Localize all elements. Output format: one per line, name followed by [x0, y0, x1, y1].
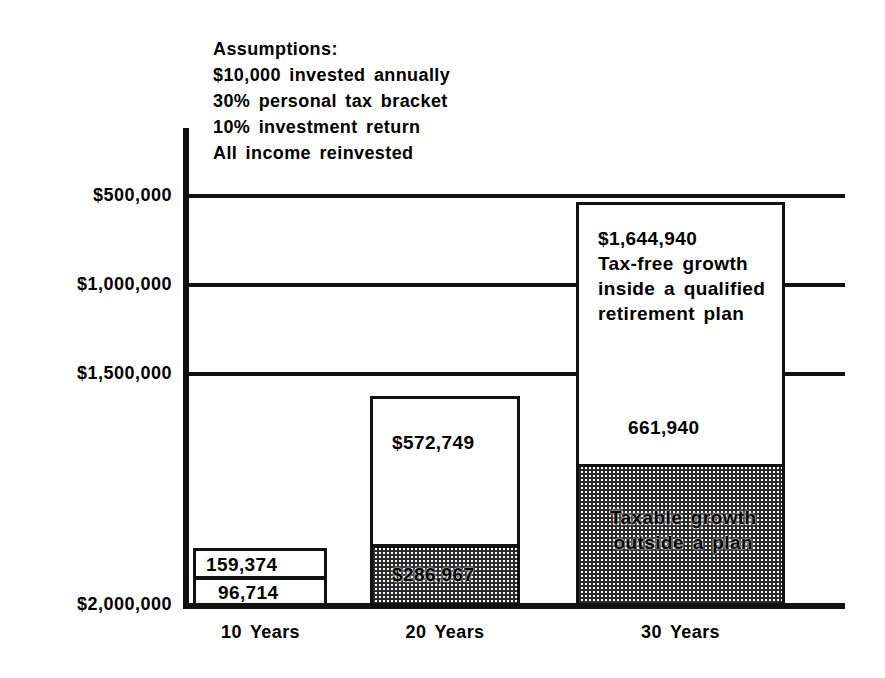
assumptions-line-3: 10% investment return: [213, 114, 450, 140]
bar-20years-segment-taxfree: [370, 396, 520, 547]
bar-30years-taxable-desc-line-1: Taxable growth: [610, 505, 757, 530]
bar-30years-taxfree-desc-line-1: Tax-free growth: [598, 251, 765, 276]
x-tick-label-10years: 10 Years: [195, 622, 326, 643]
assumptions-line-4: All income reinvested: [213, 140, 450, 166]
y-tick-label-2000000: $2,000,000: [0, 594, 172, 615]
bar-30years-taxfree-annotation: $1,644,940 Tax-free growth inside a qual…: [598, 226, 765, 326]
assumptions-line-1: $10,000 invested annually: [213, 62, 450, 88]
bar-chart: $500,000 $1,000,000 $1,500,000 $2,000,00…: [0, 0, 885, 678]
gridline-500000: [186, 194, 845, 198]
bar-30years-taxfree-desc-line-3: retirement plan: [598, 301, 765, 326]
x-tick-label-30years: 30 Years: [576, 622, 785, 643]
bar-30years-taxable-desc-line-2: outside a plan: [610, 530, 757, 555]
y-axis-line: [183, 128, 189, 609]
assumptions-block: Assumptions: $10,000 invested annually 3…: [213, 36, 450, 166]
bar-10years-taxfree-value: 159,374: [206, 552, 277, 577]
assumptions-heading: Assumptions:: [213, 36, 450, 62]
bar-30years-taxfree-value: $1,644,940: [598, 226, 765, 251]
bar-30years-taxable-annotation: Taxable growth outside a plan: [610, 505, 757, 555]
y-tick-label-1500000: $1,500,000: [0, 363, 172, 384]
assumptions-line-2: 30% personal tax bracket: [213, 88, 450, 114]
bar-30years-taxable-value: 661,940: [628, 415, 699, 440]
bar-20years-taxable-value: $286,967: [392, 562, 474, 587]
y-tick-label-500000: $500,000: [0, 185, 172, 206]
y-tick-label-1000000: $1,000,000: [0, 274, 172, 295]
bar-10years-taxable-value: 96,714: [218, 580, 279, 605]
bar-30years-taxfree-desc-line-2: inside a qualified: [598, 276, 765, 301]
x-tick-label-20years: 20 Years: [370, 622, 520, 643]
bar-20years-taxfree-value: $572,749: [392, 430, 474, 455]
